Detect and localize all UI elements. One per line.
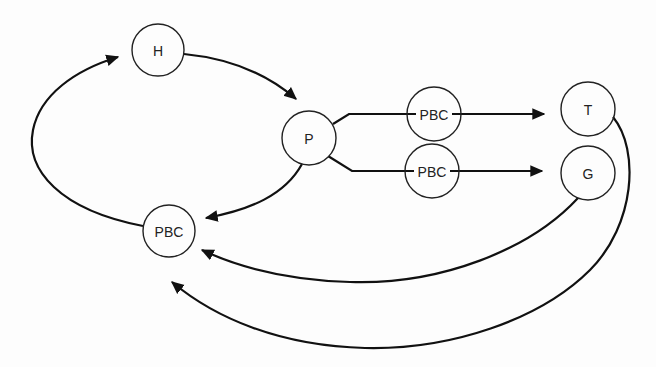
node-p-label: P [304, 131, 313, 147]
node-h: H [132, 24, 184, 76]
node-pbc-left: PBC [143, 205, 195, 257]
node-p: P [282, 111, 336, 165]
node-pbc-left-label: PBC [155, 224, 184, 240]
diagram-svg: H P PBC PBC T G PBC [0, 0, 656, 367]
node-t-label: T [584, 102, 593, 118]
node-pbc-upper-label: PBC [420, 107, 449, 123]
edge-h-to-p [184, 54, 296, 99]
node-g: G [561, 146, 615, 200]
edge-p-to-pbc-left [206, 164, 302, 218]
node-t: T [561, 82, 615, 136]
edge-g-to-pbc-left [202, 198, 578, 282]
node-pbc-lower-label: PBC [418, 164, 447, 180]
edge-pbc-to-h [32, 57, 143, 226]
node-g-label: G [583, 166, 594, 182]
flow-diagram: H P PBC PBC T G PBC [0, 0, 656, 367]
node-h-label: H [153, 43, 163, 59]
edge-t-to-pbc-left [172, 117, 630, 348]
